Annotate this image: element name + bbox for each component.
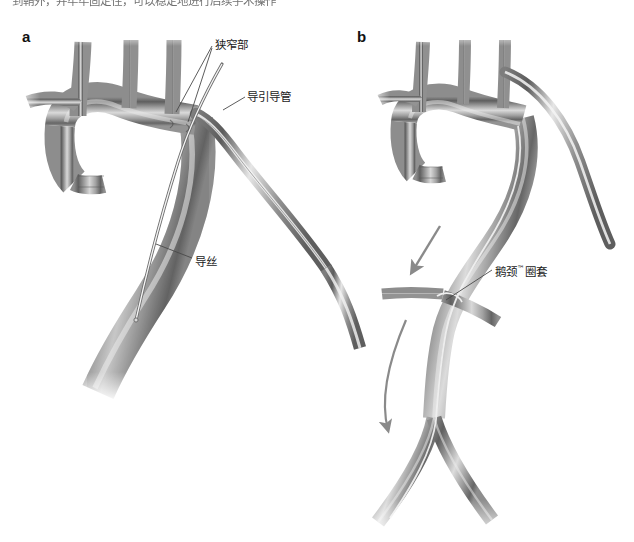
label-guidewire: 导丝 bbox=[195, 255, 217, 269]
label-snare-suffix: 圈套 bbox=[525, 265, 547, 279]
ascending-aorta-a bbox=[60, 126, 74, 182]
panel-b-artwork bbox=[360, 30, 610, 542]
left-common-carotid-b bbox=[463, 40, 465, 104]
arrow-antegrade-down[interactable] bbox=[412, 226, 440, 272]
label-snare-trademark: ™ bbox=[517, 264, 525, 273]
ascending-aorta-b bbox=[404, 122, 417, 172]
leader-guiding-catheter bbox=[223, 97, 245, 110]
label-guiding-catheter: 导引导管 bbox=[247, 90, 291, 104]
figure-root: 到鞘外，并牢牢固定住，可以稳定地进行后续手术操作 bbox=[0, 0, 634, 542]
panel-a-artwork bbox=[0, 30, 360, 402]
label-snare-prefix: 鹅颈 bbox=[495, 265, 517, 279]
panel-letter-a: a bbox=[22, 28, 30, 45]
left-subclavian-a bbox=[172, 40, 174, 114]
label-snare: 鹅颈™圈套 bbox=[495, 262, 547, 279]
guiding-catheter-a bbox=[196, 114, 326, 268]
side-branch-left-b bbox=[382, 293, 443, 295]
label-stenosis: 狭窄部 bbox=[215, 38, 248, 52]
arrow-retrograde-sweep[interactable] bbox=[385, 320, 406, 430]
left-common-carotid-a bbox=[129, 40, 131, 108]
brachiocephalic-trunk-b bbox=[419, 42, 423, 112]
panel-letter-b: b bbox=[357, 28, 366, 45]
